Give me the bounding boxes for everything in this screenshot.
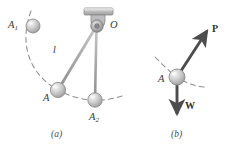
caption-b: (b) (171, 130, 182, 140)
bob-A (50, 82, 65, 97)
label-force-P: P (212, 24, 218, 34)
label-A2-subscript: 2 (95, 116, 99, 124)
label-length-l: l (53, 45, 56, 55)
label-O: O (110, 20, 118, 31)
bob-A-fbd (169, 69, 185, 85)
caption-a: (a) (51, 130, 62, 140)
physics-figure: A1 O A A2 l A P W (a) (b) (0, 0, 230, 148)
label-A-fbd: A (158, 74, 164, 85)
pivot-O (91, 20, 103, 32)
panel-a (26, 8, 122, 107)
rod-O-A (58, 26, 97, 90)
rod-O-A2 (95, 26, 97, 100)
bob-A1 (26, 19, 40, 33)
swing-path-arc-a (26, 11, 122, 100)
label-force-W: W (185, 101, 195, 111)
label-A1-subscript: 1 (14, 24, 18, 32)
bob-A2 (88, 93, 102, 107)
label-A1: A1 (8, 20, 18, 32)
label-A: A (43, 93, 49, 104)
label-A2: A2 (89, 112, 99, 124)
